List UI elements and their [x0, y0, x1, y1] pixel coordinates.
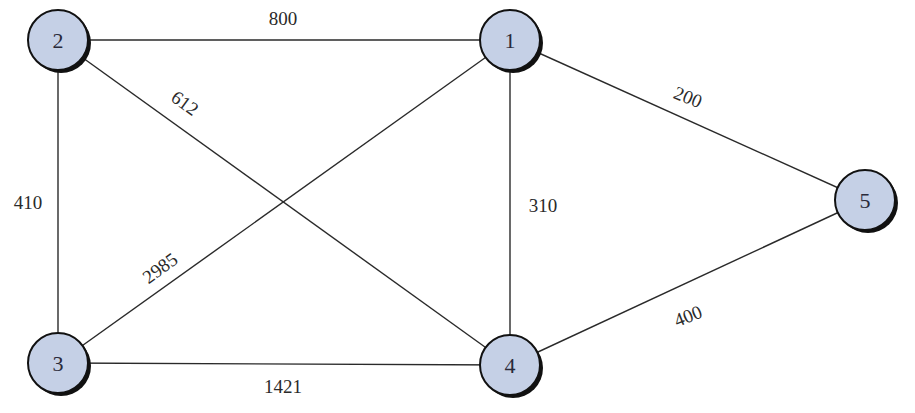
edge-weight-label: 1421 [264, 376, 302, 397]
edge-4-5 [510, 200, 865, 365]
edge-weight-label: 2985 [138, 248, 181, 287]
node-label: 4 [505, 353, 516, 378]
edge-weight-label: 400 [671, 301, 705, 331]
node-5: 5 [835, 170, 898, 233]
edge-labels-layer: 80041061229853101421200400 [14, 8, 705, 397]
edge-weight-label: 612 [167, 86, 202, 120]
node-2: 2 [28, 10, 91, 73]
edge-weight-label: 200 [671, 82, 705, 112]
node-1: 1 [480, 10, 543, 73]
node-label: 1 [505, 28, 516, 53]
node-label: 3 [53, 351, 64, 376]
node-label: 2 [53, 28, 64, 53]
nodes-layer: 12345 [28, 10, 898, 398]
node-3: 3 [28, 333, 91, 396]
node-label: 5 [860, 188, 871, 213]
node-4: 4 [480, 335, 543, 398]
edge-3-4 [58, 363, 510, 365]
edge-weight-label: 310 [529, 195, 558, 216]
edge-weight-label: 410 [14, 192, 43, 213]
edge-weight-label: 800 [269, 8, 298, 29]
graph-diagram: 80041061229853101421200400 12345 [0, 0, 915, 413]
edge-1-5 [510, 40, 865, 200]
